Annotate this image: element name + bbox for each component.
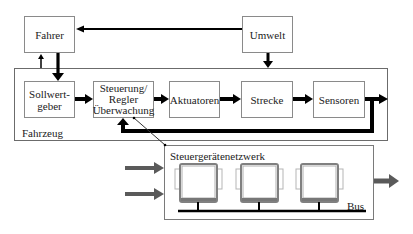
diagram-connections — [0, 0, 413, 234]
sollwertgeber-to-steuerung-arrow — [75, 94, 93, 104]
aktuatoren-to-strecke-arrow — [220, 94, 241, 104]
ecu-icon-3 — [296, 164, 343, 211]
strecke-to-sensoren-arrow — [293, 94, 313, 104]
umwelt-to-vehicle-arrow — [263, 53, 273, 68]
network-input-arrow-2 — [125, 188, 164, 200]
network-output-arrow — [374, 174, 399, 188]
vehicle-to-fahrer-arrow — [38, 54, 44, 68]
network-input-arrow-1 — [125, 162, 164, 174]
sensoren-output-arrow — [365, 94, 388, 104]
feedback-arrow — [117, 99, 372, 131]
fahrer-to-sollwertgeber-arrow — [52, 53, 64, 81]
ecu-icon-1 — [175, 164, 222, 211]
umwelt-to-fahrer-arrow — [76, 26, 242, 33]
ecu-icon-2 — [236, 164, 283, 211]
steuerung-to-aktuatoren-arrow — [154, 94, 169, 104]
